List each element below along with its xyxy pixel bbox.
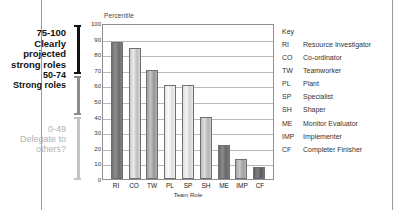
x-tick-label: CO <box>125 182 143 189</box>
x-tick-label: CF <box>251 182 269 189</box>
legend-title: Key <box>282 28 388 35</box>
bar-slot <box>144 25 162 179</box>
annotation-75-100: 75-100 Clearly projected strong roles <box>0 28 66 71</box>
legend-item-pl: PLPlant <box>282 80 388 87</box>
legend-label: Specialist <box>303 93 388 100</box>
legend-abbr: TW <box>282 67 303 74</box>
bar-slot <box>126 25 144 179</box>
y-axis-label: Percentile <box>104 12 134 19</box>
annotation-range: 50-74 <box>13 70 66 80</box>
legend-item-ri: RIResource Investigator <box>282 41 388 48</box>
bracket-50-74 <box>74 76 81 115</box>
bar-imp[interactable] <box>235 159 247 179</box>
y-tick-label: 90 <box>94 37 101 43</box>
bar-pl[interactable] <box>164 85 176 179</box>
legend-abbr: CO <box>282 54 303 61</box>
bar-cf[interactable] <box>253 167 265 179</box>
chart-page: 75-100 Clearly projected strong roles 50… <box>0 0 400 210</box>
legend-abbr: SH <box>282 106 303 113</box>
x-tick-label: RI <box>107 182 125 189</box>
annotation-description-line1: Clearly projected <box>0 39 66 60</box>
bar-me[interactable] <box>218 145 230 179</box>
y-tick-label: 70 <box>94 68 101 74</box>
bar-slot <box>232 25 250 179</box>
y-tick-label: 20 <box>94 146 101 152</box>
y-tick-label: 60 <box>94 83 101 89</box>
bar-sp[interactable] <box>182 85 194 179</box>
annotation-column: 75-100 Clearly projected strong roles 50… <box>0 0 80 210</box>
bracket-0-49 <box>74 117 81 180</box>
annotation-description-line1: Delegate to <box>20 134 66 144</box>
bracket-75-100 <box>74 25 81 74</box>
bar-co[interactable] <box>129 48 141 179</box>
y-tick-label: 30 <box>94 130 101 136</box>
legend-item-tw: TWTeamworker <box>282 67 388 74</box>
annotation-description-line2: others? <box>20 144 66 154</box>
bar-slot <box>215 25 233 179</box>
legend-label: Shaper <box>303 106 388 113</box>
y-tick-label: 40 <box>94 115 101 121</box>
legend-item-sp: SPSpecialist <box>282 93 388 100</box>
legend-abbr: SP <box>282 93 303 100</box>
legend-abbr: IMP <box>282 133 303 140</box>
legend-abbr: CF <box>282 146 303 153</box>
annotation-description-line1: Strong roles <box>13 80 66 90</box>
plot-area <box>102 24 274 180</box>
bar-slot <box>161 25 179 179</box>
legend-label: Completer Finisher <box>303 146 388 153</box>
legend-label: Teamworker <box>303 67 388 74</box>
bar-slot <box>179 25 197 179</box>
y-axis-tick-labels: 0102030405060708090100 <box>86 24 101 180</box>
x-tick-label: TW <box>143 182 161 189</box>
bar-slot <box>250 25 268 179</box>
x-axis-label: Team Role <box>102 192 274 198</box>
legend-label: Implementer <box>303 133 388 140</box>
y-tick-label: 80 <box>94 52 101 58</box>
legend-label: Plant <box>303 80 388 87</box>
bar-tw[interactable] <box>146 70 158 179</box>
x-axis-tick-labels: RICOTWPLSPSHMEIMPCF <box>102 182 274 189</box>
x-tick-label: ME <box>215 182 233 189</box>
y-tick-label: 0 <box>98 177 101 183</box>
legend-label: Resource Investigator <box>303 41 388 48</box>
annotation-0-49: 0-49 Delegate to others? <box>20 124 66 154</box>
annotation-50-74: 50-74 Strong roles <box>13 70 66 90</box>
legend: Key RIResource InvestigatorCOCo-ordinato… <box>282 28 388 159</box>
legend-abbr: PL <box>282 80 303 87</box>
legend-item-co: COCo-ordinator <box>282 54 388 61</box>
bar-sh[interactable] <box>200 117 212 179</box>
legend-item-me: MEMonitor Evaluator <box>282 120 388 127</box>
y-tick-label: 100 <box>91 21 101 27</box>
bar-slot <box>197 25 215 179</box>
bar-series <box>103 25 273 179</box>
x-tick-label: SH <box>197 182 215 189</box>
x-tick-label: PL <box>161 182 179 189</box>
legend-label: Monitor Evaluator <box>303 120 388 127</box>
bar-ri[interactable] <box>111 42 123 179</box>
annotation-range: 0-49 <box>20 124 66 134</box>
legend-entries: RIResource InvestigatorCOCo-ordinatorTWT… <box>282 41 388 153</box>
x-tick-label: SP <box>179 182 197 189</box>
legend-item-sh: SHShaper <box>282 106 388 113</box>
page-rule-right <box>392 0 393 210</box>
legend-label: Co-ordinator <box>303 54 388 61</box>
bar-slot <box>108 25 126 179</box>
legend-item-cf: CFCompleter Finisher <box>282 146 388 153</box>
legend-abbr: ME <box>282 120 303 127</box>
x-tick-label: IMP <box>233 182 251 189</box>
legend-item-imp: IMPImplementer <box>282 133 388 140</box>
y-tick-label: 10 <box>94 161 101 167</box>
annotation-description-line2: strong roles <box>0 60 66 71</box>
legend-abbr: RI <box>282 41 303 48</box>
y-tick-label: 50 <box>94 99 101 105</box>
